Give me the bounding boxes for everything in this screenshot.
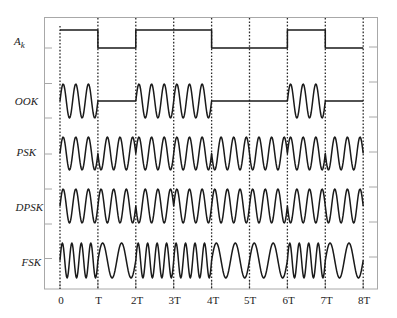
modulation-waveform-chart: Ak OOK PSK DPSK FSK 0 T 2T 3T 4T 5T 6T 7… — [0, 0, 397, 318]
x-tick-label: 0 — [58, 294, 64, 306]
right-y-ticks — [369, 47, 378, 257]
x-tick-labels: 0 T 2T 3T 4T 5T 6T 7T 8T — [58, 294, 370, 306]
x-tick-label: 5T — [244, 294, 257, 306]
x-tick-label: 2T — [131, 294, 144, 306]
fsk-waveform — [60, 243, 363, 278]
x-tick-label: 4T — [207, 294, 220, 306]
x-tick-label: 7T — [320, 294, 333, 306]
x-tick-label: 8T — [358, 294, 371, 306]
row-label-fsk: FSK — [20, 256, 41, 268]
ak-data-waveform — [60, 30, 363, 48]
row-label-ak-subscript: k — [21, 40, 26, 50]
dpsk-waveform — [60, 189, 363, 223]
row-label-ook: OOK — [15, 95, 39, 107]
ook-waveform — [60, 84, 363, 118]
left-y-ticks — [45, 48, 53, 259]
row-label-ak: Ak — [13, 35, 26, 50]
x-tick-label: T — [95, 294, 102, 306]
row-label-dpsk: DPSK — [15, 201, 44, 213]
x-tick-label: 3T — [168, 294, 181, 306]
x-tick-label: 6T — [282, 294, 295, 306]
row-label-psk: PSK — [15, 146, 36, 158]
